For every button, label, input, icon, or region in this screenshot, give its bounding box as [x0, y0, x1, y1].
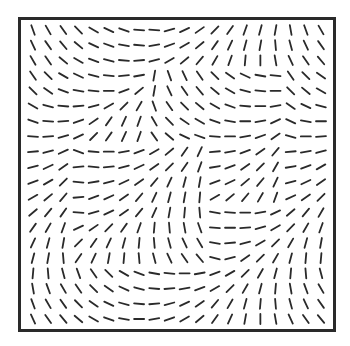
orientation-segment	[152, 208, 156, 217]
orientation-segment	[165, 29, 175, 32]
orientation-segment	[108, 253, 110, 263]
orientation-segment	[226, 180, 235, 184]
orientation-segment	[90, 301, 98, 307]
orientation-segment	[29, 87, 36, 94]
orientation-segment	[289, 314, 293, 323]
orientation-segment	[134, 75, 144, 77]
orientation-segment	[104, 195, 113, 199]
orientation-segment	[197, 239, 202, 248]
orientation-segment	[180, 43, 189, 48]
orientation-segment	[104, 104, 113, 109]
orientation-segment	[210, 166, 220, 168]
orientation-segment	[31, 41, 35, 50]
orientation-segment	[257, 163, 264, 170]
orientation-segment	[199, 208, 200, 218]
orientation-segment	[287, 209, 295, 215]
orientation-segment	[255, 90, 265, 91]
orientation-segment	[58, 106, 68, 107]
orientation-segment	[104, 28, 113, 32]
orientation-segment	[149, 44, 159, 46]
orientation-segment	[211, 72, 218, 79]
orientation-segment	[226, 194, 234, 200]
orientation-segment	[60, 193, 66, 201]
orientation-segment	[104, 44, 113, 47]
orientation-segment	[225, 212, 235, 213]
orientation-segment	[89, 28, 98, 33]
orientation-segment	[30, 224, 36, 232]
orientation-segment	[290, 268, 291, 278]
orientation-segment	[196, 316, 204, 322]
orientation-segment	[317, 179, 325, 185]
orientation-segment	[104, 302, 113, 306]
orientation-segment	[241, 164, 249, 170]
orientation-segment	[90, 285, 97, 292]
orientation-segment	[89, 166, 99, 167]
orientation-segment	[225, 257, 235, 260]
orientation-segment	[47, 253, 49, 263]
orientation-segment	[320, 238, 322, 248]
orientation-segment	[316, 105, 326, 108]
orientation-segment	[119, 151, 129, 153]
orientation-segment	[210, 136, 220, 137]
orientation-segment	[302, 88, 310, 94]
orientation-segment	[119, 44, 129, 46]
orientation-segment	[149, 273, 159, 275]
orientation-segment	[46, 223, 51, 232]
orientation-segment	[75, 239, 82, 246]
orientation-segment	[168, 192, 171, 202]
orientation-segment	[149, 303, 159, 304]
orientation-segment	[167, 178, 171, 187]
orientation-segment	[44, 88, 52, 94]
orientation-segment	[184, 208, 185, 218]
orientation-segment	[227, 26, 233, 34]
orientation-segment	[184, 192, 186, 202]
orientation-segment	[137, 117, 140, 126]
orientation-segment	[92, 254, 96, 263]
orientation-segment	[62, 223, 65, 232]
orientation-segment	[73, 182, 83, 183]
orientation-field-frame	[18, 17, 336, 332]
orientation-segment	[301, 104, 310, 108]
orientation-segment	[166, 148, 174, 154]
orientation-segment	[150, 164, 158, 170]
orientation-segment	[211, 104, 220, 109]
orientation-segment	[153, 253, 156, 263]
orientation-segment	[182, 254, 188, 262]
orientation-segment	[32, 284, 34, 294]
orientation-segment	[290, 284, 292, 294]
orientation-segment	[134, 287, 144, 290]
orientation-segment	[290, 25, 292, 35]
orientation-segment	[244, 299, 247, 309]
orientation-segment	[199, 177, 201, 187]
orientation-segment	[196, 103, 204, 109]
orientation-segment	[196, 42, 204, 48]
orientation-segment	[275, 56, 277, 66]
orientation-segment	[119, 75, 129, 76]
orientation-segment	[73, 212, 83, 213]
orientation-segment	[31, 299, 34, 308]
orientation-segment	[134, 272, 143, 275]
orientation-segment	[182, 238, 186, 247]
orientation-segment	[275, 314, 277, 324]
orientation-segment	[228, 314, 232, 323]
orientation-segment	[89, 105, 99, 108]
orientation-segment	[316, 150, 326, 153]
orientation-segment	[180, 302, 189, 306]
orientation-segment	[273, 163, 278, 172]
orientation-segment	[60, 41, 66, 49]
orientation-segment	[286, 166, 296, 168]
orientation-segment	[273, 178, 277, 187]
orientation-segment	[240, 136, 250, 138]
orientation-segment	[74, 134, 83, 138]
orientation-segment	[274, 193, 277, 202]
orientation-segment	[275, 299, 276, 309]
orientation-segment	[119, 28, 128, 31]
orientation-segment	[226, 73, 234, 79]
orientation-segment	[43, 105, 53, 108]
orientation-segment	[119, 303, 129, 306]
orientation-segment	[255, 212, 265, 214]
orientation-segment	[152, 117, 157, 126]
orientation-segment	[164, 273, 174, 274]
orientation-segment	[317, 73, 325, 79]
orientation-segment	[90, 133, 97, 140]
